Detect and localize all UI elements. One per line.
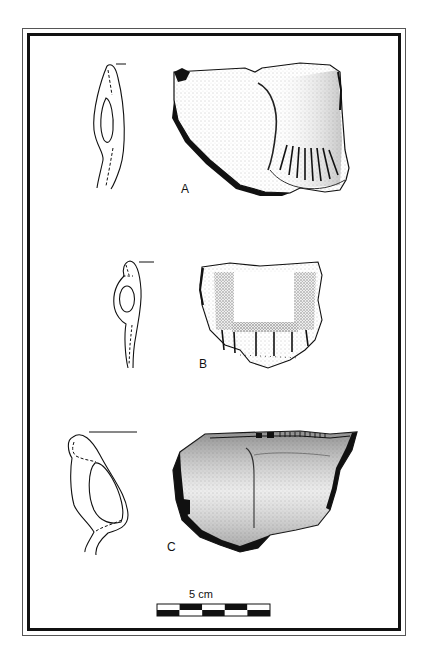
scale-bar-segment-bottom	[225, 610, 248, 616]
scale-bar-segment-top	[157, 604, 180, 610]
specimen-b-label: B	[199, 357, 207, 371]
plate-drawing: A B	[0, 0, 425, 652]
scale-bar-segment-top	[202, 604, 225, 610]
specimen-c-drawing	[173, 431, 357, 552]
specimen-a-label: A	[181, 182, 189, 196]
scale-bar	[157, 604, 270, 616]
specimen-c-label: C	[167, 540, 176, 554]
scale-bar-label: 5 cm	[189, 588, 213, 600]
scale-bar-segment-top	[225, 604, 248, 610]
scale-bar-segment-top	[180, 604, 203, 610]
scale-bar-segment-bottom	[180, 610, 203, 616]
scale-bar-segment-bottom	[247, 610, 270, 616]
specimen-b-profile	[114, 261, 154, 368]
scale-bar-segment-bottom	[157, 610, 180, 616]
scale-bar-segment-bottom	[202, 610, 225, 616]
specimen-b-drawing	[200, 262, 322, 368]
scale-bar-segment-top	[247, 604, 270, 610]
specimen-a-profile	[94, 64, 126, 189]
specimen-a-drawing	[172, 63, 349, 196]
specimen-c-profile	[68, 432, 137, 555]
